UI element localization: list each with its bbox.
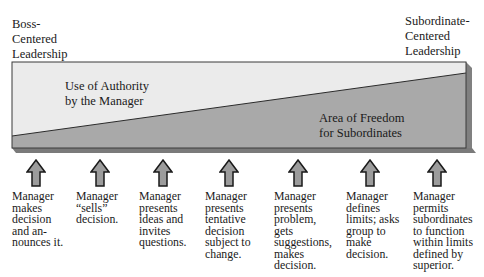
text-line: change.	[205, 249, 275, 261]
step-6: Manager defines limits; asks group to ma…	[346, 159, 416, 260]
up-arrow-icon	[219, 159, 239, 187]
step-5: Manager presents problem, gets suggestio…	[274, 159, 344, 272]
up-arrow-icon	[26, 159, 46, 187]
step-description: Manager presents tentative decision subj…	[205, 191, 275, 260]
authority-region-label: Use of Authority by the Manager	[65, 79, 149, 109]
freedom-region-label: Area of Freedom for Subordinates	[319, 111, 404, 141]
bar-bottom-shadow	[12, 148, 476, 153]
up-arrow-icon	[90, 159, 110, 187]
bar-right-shadow	[466, 62, 472, 148]
step-4: Manager presents tentative decision subj…	[205, 159, 275, 260]
text-line: superior.	[413, 260, 483, 272]
text-line: questions.	[139, 237, 209, 249]
step-7: Manager permits subordinates to function…	[413, 159, 483, 272]
text-line: nounces it.	[12, 237, 82, 249]
label-line: by the Manager	[65, 94, 149, 109]
label-line: for Subordinates	[319, 126, 404, 141]
step-description: Manager makes decision and an- nounces i…	[12, 191, 82, 249]
up-arrow-icon	[288, 159, 308, 187]
text-line: decision.	[76, 214, 146, 226]
up-arrow-icon	[360, 159, 380, 187]
step-1: Manager makes decision and an- nounces i…	[12, 159, 82, 249]
step-description: Manager presents ideas and invites quest…	[139, 191, 209, 249]
step-description: Manager “sells” decision.	[76, 191, 146, 226]
text-line: decision.	[346, 249, 416, 261]
up-arrow-icon	[427, 159, 447, 187]
label-line: Area of Freedom	[319, 111, 404, 126]
step-description: Manager permits subordinates to function…	[413, 191, 483, 272]
step-3: Manager presents ideas and invites quest…	[139, 159, 209, 249]
step-description: Manager presents problem, gets suggestio…	[274, 191, 344, 272]
label-line: Use of Authority	[65, 79, 149, 94]
step-2: Manager “sells” decision.	[76, 159, 146, 226]
up-arrow-icon	[153, 159, 173, 187]
text-line: decision.	[274, 260, 344, 272]
step-description: Manager defines limits; asks group to ma…	[346, 191, 416, 260]
